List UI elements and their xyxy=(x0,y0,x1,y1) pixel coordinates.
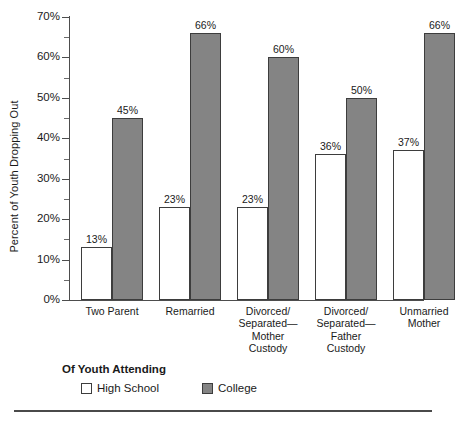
y-tick-label-wrap: 40% xyxy=(0,132,60,144)
bar-value-label: 13% xyxy=(77,234,116,245)
bar-value-label: 50% xyxy=(342,85,381,96)
bar-college xyxy=(112,118,143,300)
y-tick-major xyxy=(62,98,69,99)
y-tick-label: 20% xyxy=(2,213,60,225)
legend-label-high-school: High School xyxy=(97,382,159,394)
bar-value-label: 23% xyxy=(155,194,194,205)
bar-college xyxy=(268,57,299,300)
legend-item-college: College xyxy=(202,382,257,394)
bar-value-label: 45% xyxy=(108,105,147,116)
y-tick-label: 70% xyxy=(2,11,60,23)
y-tick-major xyxy=(62,17,69,18)
legend-title: Of Youth Attending xyxy=(62,362,362,376)
legend-swatch-college xyxy=(202,383,213,394)
y-tick-major xyxy=(62,219,69,220)
x-category-line: Mother xyxy=(374,317,459,329)
y-tick-major xyxy=(62,138,69,139)
y-tick-label: 60% xyxy=(2,51,60,63)
y-tick-major xyxy=(62,260,69,261)
y-tick-label-wrap: 50% xyxy=(0,92,60,104)
y-tick-label-wrap: 10% xyxy=(0,254,60,266)
legend-swatch-high-school xyxy=(81,383,92,394)
y-tick-label-wrap: 20% xyxy=(0,213,60,225)
bar-value-label: 60% xyxy=(264,44,303,55)
plot-area xyxy=(69,17,424,300)
bottom-divider xyxy=(14,410,432,412)
bar-high-school xyxy=(237,207,268,300)
y-tick-major xyxy=(62,179,69,180)
bar-high-school xyxy=(315,154,346,300)
bar-value-label: 66% xyxy=(186,20,225,31)
y-tick-label-wrap: 70% xyxy=(0,11,60,23)
y-tick-label: 40% xyxy=(2,132,60,144)
x-category-line: Father xyxy=(296,330,396,342)
bar-high-school xyxy=(393,150,424,300)
y-tick-label: 10% xyxy=(2,254,60,266)
y-tick-label-wrap: 30% xyxy=(0,173,60,185)
bar-high-school xyxy=(159,207,190,300)
y-tick-label-wrap: 0% xyxy=(0,294,60,306)
bar-college xyxy=(190,33,221,300)
bar-value-label: 66% xyxy=(420,20,459,31)
y-tick-label: 30% xyxy=(2,173,60,185)
x-category-label: UnmarriedMother xyxy=(374,305,459,330)
legend: Of Youth Attending High School College xyxy=(62,362,362,398)
y-tick-label-wrap: 60% xyxy=(0,51,60,63)
bar-college xyxy=(346,98,377,300)
legend-label-college: College xyxy=(218,382,257,394)
x-axis-line xyxy=(62,300,424,301)
bar-value-label: 36% xyxy=(311,141,350,152)
bar-high-school xyxy=(81,247,112,300)
legend-item-high-school: High School xyxy=(81,382,159,394)
y-tick-major xyxy=(62,57,69,58)
x-category-line: Custody xyxy=(296,342,396,354)
legend-items: High School College xyxy=(62,382,362,398)
y-tick-label: 50% xyxy=(2,92,60,104)
bar-value-label: 23% xyxy=(233,194,272,205)
y-tick-label: 0% xyxy=(2,294,60,306)
y-tick-major xyxy=(62,300,69,301)
bar-value-label: 37% xyxy=(389,137,428,148)
x-category-line: Unmarried xyxy=(374,305,459,317)
bar-college xyxy=(424,33,455,300)
